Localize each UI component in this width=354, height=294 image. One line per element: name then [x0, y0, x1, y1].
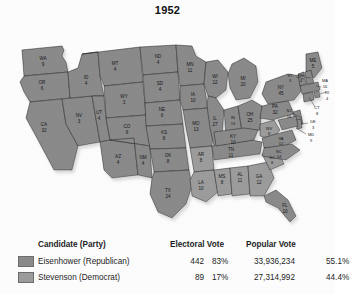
democrat-swatch-cell	[18, 272, 34, 283]
legend-header-candidate: Candidate (Party)	[34, 240, 170, 249]
state-IA[interactable]	[180, 84, 208, 110]
ev-RI: 4	[326, 96, 329, 101]
legend-pv-pct-democrat: 44.4%	[326, 273, 354, 282]
state-WA[interactable]	[22, 46, 68, 76]
state-WY[interactable]	[104, 82, 146, 118]
state-RI[interactable]	[314, 91, 320, 98]
state-AR[interactable]	[190, 146, 214, 172]
state-OK[interactable]	[150, 148, 189, 172]
legend-header-popular-vote: Popular Vote	[246, 240, 354, 249]
legend-pv-pct-republican: 55.1%	[326, 257, 354, 266]
state-LA[interactable]	[190, 170, 218, 202]
label-CT: CT	[314, 105, 320, 110]
label-MA: MA	[322, 78, 328, 83]
us-electoral-map: WA 9 OR 6 CA 32 NV 3 ID 4 MT 4 WY 3 UT 4…	[0, 20, 335, 228]
leader-MD	[296, 128, 306, 134]
ev-CT: 8	[316, 111, 319, 116]
state-CT[interactable]	[303, 92, 314, 102]
page-title: 1952	[0, 4, 335, 16]
legend-row-democrat[interactable]: Stevenson (Democrat) 89 17% 27,314,992 4…	[18, 269, 323, 285]
legend-header-row: Candidate (Party) Electoral Vote Popular…	[18, 236, 323, 253]
state-OR[interactable]	[20, 72, 70, 102]
state-MN[interactable]	[176, 45, 206, 86]
state-ND[interactable]	[140, 45, 178, 75]
legend-row-republican[interactable]: Eisenhower (Republican) 442 83% 33,936,2…	[18, 253, 323, 269]
state-TX[interactable]	[150, 170, 192, 218]
state-NY[interactable]	[262, 74, 302, 104]
state-KS[interactable]	[146, 124, 186, 149]
legend-candidate-republican: Eisenhower (Republican)	[34, 257, 170, 266]
label-MD: MD	[308, 132, 314, 137]
ev-MD: 9	[310, 138, 313, 143]
leader-RI	[320, 92, 326, 94]
legend-pv-republican: 33,936,234	[254, 257, 326, 266]
legend-pv-democrat: 27,314,992	[254, 273, 326, 282]
map-svg: WA 9 OR 6 CA 32 NV 3 ID 4 MT 4 WY 3 UT 4…	[0, 20, 335, 228]
republican-swatch-cell	[18, 256, 34, 267]
state-AZ[interactable]	[100, 138, 138, 178]
label-RI: RI	[325, 90, 329, 95]
democrat-swatch	[18, 272, 34, 283]
state-SD[interactable]	[143, 72, 180, 103]
state-MI[interactable]	[228, 58, 258, 100]
legend-candidate-democrat: Stevenson (Democrat)	[34, 273, 170, 282]
map-landmass	[20, 45, 322, 222]
legend-ev-pct-republican: 83%	[212, 257, 254, 266]
ev-DE: 3	[312, 125, 315, 130]
state-PA[interactable]	[260, 100, 294, 120]
legend-ev-pct-democrat: 17%	[212, 273, 254, 282]
state-AL[interactable]	[230, 166, 250, 196]
state-FL[interactable]	[264, 190, 296, 222]
state-WI[interactable]	[204, 60, 228, 98]
legend-header-electoral-vote: Electoral Vote	[170, 240, 246, 249]
state-MD[interactable]	[278, 116, 298, 130]
legend-ev-republican: 442	[170, 257, 212, 266]
ev-MA: 16	[323, 84, 328, 89]
state-NE[interactable]	[145, 100, 183, 126]
republican-swatch	[18, 256, 34, 267]
legend-table: Candidate (Party) Electoral Vote Popular…	[18, 236, 323, 285]
label-DE: DE	[310, 119, 316, 124]
legend-ev-democrat: 89	[170, 273, 212, 282]
